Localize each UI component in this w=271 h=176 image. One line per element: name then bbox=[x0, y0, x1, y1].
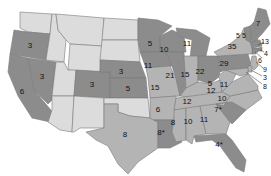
label-MI: 11 bbox=[183, 39, 192, 48]
label-TN: 12 bbox=[183, 97, 192, 106]
label-CO: 3 bbox=[90, 80, 95, 89]
state-WA bbox=[20, 12, 52, 34]
label-GA: 11 bbox=[200, 115, 209, 124]
label-MD: 8 bbox=[263, 83, 267, 90]
label-IA: 11 bbox=[144, 61, 153, 70]
label-NV: 3 bbox=[40, 72, 45, 81]
label-DE: 3 bbox=[263, 74, 267, 81]
label-TX: 8 bbox=[123, 130, 128, 139]
label-SC: 7* bbox=[214, 105, 222, 114]
label-OR: 3 bbox=[28, 41, 33, 50]
label-IL: 21 bbox=[166, 71, 175, 80]
label-MN: 5 bbox=[148, 39, 153, 48]
label-NE: 3 bbox=[119, 67, 124, 76]
state-DE bbox=[248, 66, 252, 72]
state-NM bbox=[72, 96, 104, 132]
state-AZ bbox=[48, 96, 74, 132]
label-MA: 13 bbox=[261, 38, 269, 45]
label-PA: 29 bbox=[220, 59, 229, 68]
label-WI: 10 bbox=[160, 45, 169, 54]
label-VA: 11 bbox=[220, 80, 229, 89]
label-AL: 10 bbox=[184, 117, 193, 126]
label-NH: 5 bbox=[242, 32, 246, 39]
state-CT bbox=[252, 48, 258, 54]
label-VT: 5 bbox=[236, 32, 240, 39]
state-WY bbox=[68, 44, 102, 72]
leader-DE bbox=[251, 70, 262, 76]
label-MO: 15 bbox=[151, 83, 160, 92]
label-IN: 15 bbox=[181, 70, 190, 79]
label-CA: 6 bbox=[20, 87, 25, 96]
state-AR bbox=[150, 96, 176, 120]
label-KS: 5 bbox=[126, 84, 131, 93]
state-SD bbox=[100, 40, 140, 62]
label-NC: 10 bbox=[218, 94, 227, 103]
state-RI bbox=[258, 47, 262, 51]
us-map: 3 6 3 3 3 5 8 5 11 15 6 8* 10 21 11 15 2… bbox=[0, 0, 271, 176]
label-WV: 5 bbox=[208, 79, 213, 88]
label-LA: 8* bbox=[157, 128, 165, 137]
label-CT: 6 bbox=[258, 57, 262, 64]
label-OH: 22 bbox=[196, 67, 205, 76]
label-ME: 7 bbox=[256, 19, 261, 28]
label-NJ: 9 bbox=[263, 66, 267, 73]
label-MS: 8 bbox=[171, 118, 176, 127]
state-ND bbox=[102, 18, 138, 40]
label-NY: 35 bbox=[228, 42, 237, 51]
label-AR: 6 bbox=[156, 105, 161, 114]
label-FL: 4* bbox=[215, 140, 223, 149]
label-RI: 4 bbox=[264, 50, 268, 57]
